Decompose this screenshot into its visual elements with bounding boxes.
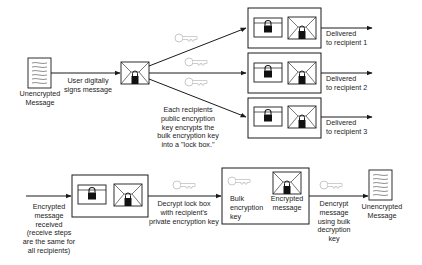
label-line: to recipient 2 — [326, 84, 367, 93]
label-line: key — [311, 235, 357, 244]
label-line: signs message — [58, 86, 118, 95]
key-icon — [173, 181, 195, 189]
document-icon — [28, 58, 51, 88]
label-line: into a "lock box." — [152, 141, 224, 150]
label-line: all recipients) — [18, 247, 80, 256]
label-line: private encryption key — [146, 218, 222, 227]
output-doc-label: Unencrypted Message — [354, 203, 410, 221]
key-icon — [185, 58, 207, 66]
label-line: Message — [354, 212, 410, 221]
label-line: Message — [12, 99, 68, 108]
label-line: to recipient 1 — [326, 39, 367, 48]
decrypt-lockbox-label: Decrypt lock box with recipient's privat… — [146, 200, 222, 226]
decrypt-msg-label: Dencrypt message using bulk decryption k… — [311, 200, 357, 244]
recipient-1-label: Delivered to recipient 1 — [326, 30, 367, 48]
key-icon — [185, 78, 207, 86]
label-line: to recipient 3 — [326, 128, 367, 137]
key-icon — [175, 34, 197, 42]
recipient-2-label: Delivered to recipient 2 — [326, 75, 367, 93]
recipient-3-label: Delivered to recipient 3 — [326, 119, 367, 137]
encrypted-msg-label: Encrypted message — [266, 195, 308, 213]
sealed-envelope-icon — [121, 62, 149, 84]
sign-label: User digitally signs message — [58, 77, 118, 95]
received-box — [72, 175, 148, 217]
document-icon — [369, 170, 392, 200]
received-label: Encrypted message received (receive step… — [18, 203, 80, 256]
label-line: key — [230, 213, 263, 222]
label-line: message — [266, 204, 308, 213]
lockbox-note: Each recipients public encryption key en… — [152, 106, 224, 150]
bulk-key-label: Bulk encryption key — [230, 195, 263, 221]
key-icon — [320, 181, 342, 189]
